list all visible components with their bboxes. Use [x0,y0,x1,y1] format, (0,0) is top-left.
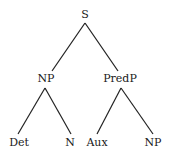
node-s: S [81,9,89,21]
node-aux: Aux [86,137,107,149]
edge-s-predp [85,23,118,71]
edge-predp-aux [97,88,121,134]
node-np: NP [37,73,54,85]
edge-predp-np [121,88,153,134]
tree-edges [0,0,169,154]
edge-np-n [45,88,71,134]
node-n: N [65,137,75,149]
edge-np-det [18,88,45,134]
node-np-object: NP [144,137,161,149]
node-det: Det [9,137,29,149]
node-predp: PredP [103,73,137,85]
edge-s-np [52,23,85,71]
